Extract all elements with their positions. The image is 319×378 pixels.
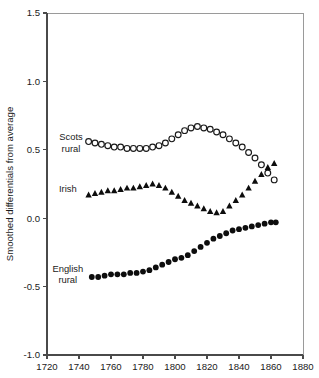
data-point xyxy=(118,144,124,150)
data-point xyxy=(147,267,153,273)
data-point xyxy=(105,143,111,149)
data-point xyxy=(255,222,261,228)
y-tick-label: 1.5 xyxy=(27,7,40,18)
data-point xyxy=(159,262,165,268)
data-point xyxy=(273,219,279,225)
data-point xyxy=(150,144,156,150)
data-point xyxy=(227,136,233,142)
data-point xyxy=(121,271,127,277)
x-tick-label: 1740 xyxy=(68,361,89,372)
data-point xyxy=(124,146,130,152)
data-point xyxy=(102,273,108,279)
x-tick-label: 1860 xyxy=(260,361,281,372)
data-point xyxy=(207,126,213,132)
series-label-scots-rural: rural xyxy=(62,143,81,154)
data-point xyxy=(99,141,105,147)
data-point xyxy=(214,129,220,135)
data-point xyxy=(239,144,245,150)
data-point xyxy=(259,162,265,168)
x-tick-label: 1760 xyxy=(100,361,121,372)
data-point xyxy=(204,240,210,246)
data-point xyxy=(131,146,137,152)
data-point xyxy=(140,269,146,275)
series-label-english-rural: English xyxy=(52,263,83,274)
data-point xyxy=(230,228,236,234)
y-axis-ticks: -1.0-0.50.00.51.01.5 xyxy=(23,7,47,360)
x-tick-label: 1880 xyxy=(292,361,313,372)
data-point xyxy=(198,244,204,250)
series-label-english-rural: rural xyxy=(58,274,77,285)
data-point xyxy=(166,259,172,265)
y-tick-label: 0.5 xyxy=(27,144,40,155)
data-point xyxy=(220,132,226,138)
y-tick-label: 0.0 xyxy=(27,213,40,224)
data-point xyxy=(163,140,169,146)
series-label-irish: Irish xyxy=(59,183,77,194)
data-point xyxy=(211,236,217,242)
data-point xyxy=(169,136,175,142)
data-point xyxy=(201,125,207,131)
x-tick-label: 1800 xyxy=(164,361,185,372)
data-point xyxy=(249,224,255,230)
data-point xyxy=(175,132,181,138)
data-point xyxy=(89,274,95,280)
data-point xyxy=(95,274,101,280)
data-point xyxy=(153,265,159,271)
data-point xyxy=(262,221,268,227)
data-point xyxy=(217,233,223,239)
data-point xyxy=(195,124,201,130)
y-tick-label: -1.0 xyxy=(23,349,40,360)
data-point xyxy=(243,225,249,231)
data-point xyxy=(233,140,239,146)
x-tick-label: 1720 xyxy=(36,361,57,372)
x-tick-label: 1780 xyxy=(132,361,153,372)
x-axis-ticks: 172017401760178018001820184018601880 xyxy=(36,355,313,372)
x-tick-label: 1820 xyxy=(196,361,217,372)
scatter-chart: -1.0-0.50.00.51.01.5 1720174017601780180… xyxy=(0,0,319,378)
data-point xyxy=(185,252,191,258)
data-point xyxy=(108,271,114,277)
data-point xyxy=(252,155,258,161)
plot-border xyxy=(47,13,303,355)
chart-page: -1.0-0.50.00.51.01.5 1720174017601780180… xyxy=(0,0,319,378)
data-point xyxy=(188,125,194,131)
data-point xyxy=(265,170,271,176)
data-point xyxy=(86,139,92,145)
data-point xyxy=(127,270,133,276)
data-point xyxy=(115,271,121,277)
data-point xyxy=(182,128,188,134)
x-tick-label: 1840 xyxy=(228,361,249,372)
data-point xyxy=(111,144,117,150)
data-point xyxy=(92,140,98,146)
data-point xyxy=(134,270,140,276)
data-point xyxy=(223,230,229,236)
data-point xyxy=(271,177,277,183)
data-point xyxy=(236,226,242,232)
data-point xyxy=(179,255,185,261)
data-point xyxy=(172,256,178,262)
y-tick-label: 1.0 xyxy=(27,76,40,87)
data-point xyxy=(137,146,143,152)
plot-frame xyxy=(47,13,303,355)
y-axis-title: Smoothed differentials from average xyxy=(4,107,15,261)
data-point xyxy=(246,150,252,156)
series-label-scots-rural: Scots xyxy=(59,131,83,142)
data-point xyxy=(143,146,149,152)
data-point xyxy=(191,248,197,254)
y-tick-label: -0.5 xyxy=(23,281,40,292)
data-point xyxy=(156,143,162,149)
